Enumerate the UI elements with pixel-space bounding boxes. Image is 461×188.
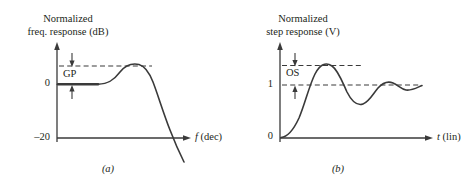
panel-b-y-tick-1: 1 bbox=[251, 78, 273, 89]
panel-b-x-axis-variable: t bbox=[437, 131, 440, 142]
panel-a-x-axis-variable: f bbox=[195, 131, 198, 142]
panel-a-response-curve bbox=[98, 64, 184, 162]
panel-a-y-tick-0: 0 bbox=[26, 77, 50, 88]
panel-a-x-axis-unit: (dec) bbox=[201, 131, 223, 142]
panel-b-y-axis-arrowhead bbox=[277, 42, 283, 50]
panel-b-x-axis-arrowhead bbox=[425, 135, 433, 141]
panel-a-caption: (a) bbox=[88, 163, 128, 174]
panel-b-caption: (b) bbox=[318, 163, 358, 174]
panel-b-arrow-up-head bbox=[292, 86, 297, 93]
panel-a-y-tick-minus20: –20 bbox=[18, 131, 50, 142]
panel-b-step-response-curve bbox=[281, 64, 422, 137]
panel-a-plot bbox=[0, 0, 229, 188]
panel-b-x-axis-unit: (lin) bbox=[443, 131, 461, 142]
panel-frequency-response: Normalized freq. response (dB) 0 –20 GP bbox=[0, 0, 229, 188]
panel-step-response: Normalized step response (V) 1 0 OS bbox=[229, 0, 458, 188]
panel-a-arrow-up-head bbox=[69, 85, 74, 92]
panel-a-x-axis-arrowhead bbox=[183, 135, 191, 141]
panel-b-plot bbox=[229, 0, 458, 188]
panel-a-gain-peaking-label: GP bbox=[62, 68, 77, 79]
panel-b-x-axis-label: t (lin) bbox=[437, 131, 461, 142]
panel-b-overshoot-label: OS bbox=[285, 67, 300, 78]
panel-b-y-tick-0: 0 bbox=[251, 130, 273, 141]
panel-a-x-axis-label: f (dec) bbox=[195, 131, 222, 142]
panel-a-y-axis-arrowhead bbox=[54, 42, 60, 50]
